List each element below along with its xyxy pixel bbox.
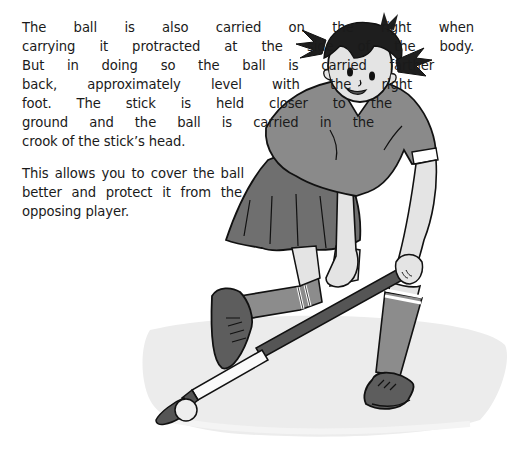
hockey-ball bbox=[175, 399, 197, 421]
ground-shadow bbox=[143, 316, 508, 437]
book-page: The ball is also carried on the right wh… bbox=[0, 0, 519, 449]
front-arm bbox=[396, 160, 437, 284]
text-line: opposing player. bbox=[22, 202, 244, 221]
text-line: foot. The stick is held closer to the bbox=[22, 94, 392, 113]
text-line: The ball is also carried on the right wh… bbox=[22, 18, 474, 37]
text-line: But in doing so the ball is carried fart… bbox=[22, 56, 434, 75]
text-line: ground and the ball is carried in the bbox=[22, 113, 374, 132]
paragraph-benefit: This allows you to cover the ball better… bbox=[22, 164, 244, 221]
text-line: This allows you to cover the ball bbox=[22, 164, 244, 183]
text-line: carrying it protracted at the side of th… bbox=[22, 37, 474, 56]
text-line: crook of the stick’s head. bbox=[22, 132, 474, 151]
paragraph-carrying-technique: The ball is also carried on the right wh… bbox=[22, 18, 474, 151]
text-line: better and protect it from the bbox=[22, 183, 242, 202]
text-line: back, approximately level with the right bbox=[22, 75, 412, 94]
